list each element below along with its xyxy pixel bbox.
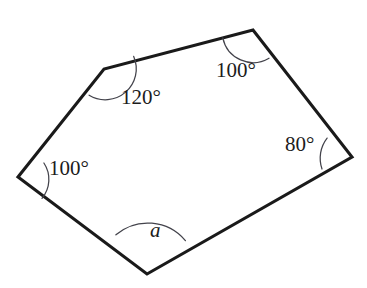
angle-label-top: 100° [216, 60, 256, 81]
angle-label-upper-left: 120° [121, 87, 161, 108]
geometry-figure: 100° 120° 100° 80° a [0, 0, 367, 288]
angle-label-right: 80° [285, 134, 314, 155]
angle-label-left: 100° [49, 158, 89, 179]
angle-label-bottom-unknown: a [150, 220, 161, 241]
